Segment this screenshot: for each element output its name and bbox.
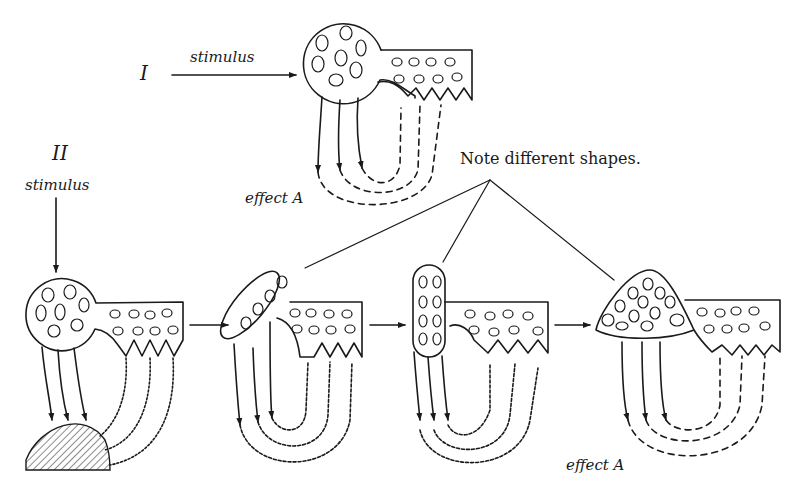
note-text: Note different shapes.	[460, 149, 641, 168]
part-two-effect-label: effect A	[566, 456, 625, 474]
part-one-nuclei	[312, 26, 462, 86]
stage-4	[596, 270, 780, 456]
stage-1	[26, 279, 183, 470]
part-one: I stimulus	[139, 24, 472, 207]
stage-3-nuclei	[419, 276, 441, 345]
part-one-numeral: I	[139, 61, 149, 85]
note-callout: Note different shapes.	[305, 149, 641, 280]
part-two-stimulus-label: stimulus	[25, 176, 90, 194]
part-two-numeral: II	[51, 141, 69, 165]
note-pointer-stage-4	[490, 180, 614, 280]
diagram-canvas: I stimulus	[0, 0, 799, 498]
stage-2	[212, 263, 362, 462]
stage-4-nuclei	[602, 278, 684, 331]
part-one-effector-paths	[318, 97, 441, 205]
effect-hatched-mound	[26, 424, 110, 470]
part-two: II stimulus	[25, 141, 780, 474]
stage-1-nuclei	[36, 285, 178, 337]
note-pointer-stage-3	[443, 180, 490, 262]
part-one-effect-label: effect A	[245, 189, 304, 207]
part-one-cell	[303, 24, 472, 104]
stage-3	[413, 265, 548, 463]
note-pointer-stage-2	[305, 180, 490, 268]
stage-2-nuclei	[241, 276, 287, 329]
part-one-stimulus-label: stimulus	[190, 48, 255, 66]
